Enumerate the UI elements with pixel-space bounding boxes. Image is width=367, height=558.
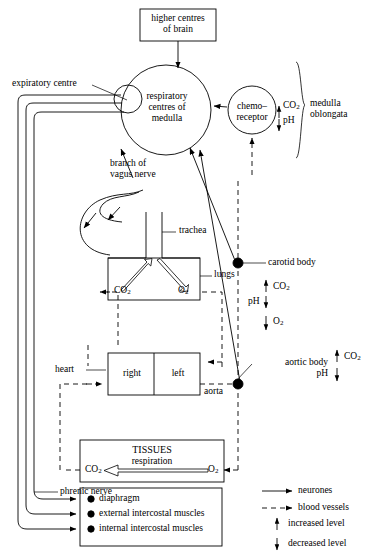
aortic-body-label: aortic body (252, 357, 328, 368)
expiratory-centre-label: expiratory centre (12, 78, 77, 89)
bullet-internal-intercostals (88, 526, 94, 532)
higher-centres-label: higher centres of brain (142, 13, 214, 35)
aorta-label: aorta (204, 386, 223, 397)
tissues-o2-label: O2 (208, 464, 218, 477)
lungs-label: lungs (214, 269, 235, 280)
tissues-co2-label: CO2 (85, 464, 102, 477)
trachea-label: trachea (179, 225, 206, 236)
respiratory-centres-label: respiratory centres of medulla (134, 91, 200, 124)
carotid-body-node (233, 258, 243, 268)
branch-vagus-label: branch of vagus nerve (110, 158, 156, 180)
legend-label-2: increased level (288, 518, 345, 529)
respiratory-control-diagram: higher centres of brain respiratory cent… (0, 0, 367, 558)
effector-label-0: diaphragm (99, 493, 140, 504)
carotid-body-label: carotid body (268, 257, 316, 268)
vagus-arrowhead-inner (108, 207, 120, 220)
lungs-co2-label: CO2 (114, 285, 131, 298)
tissues-label: TISSUES (80, 444, 224, 455)
legend-label-3: decreased level (288, 538, 346, 549)
carotid-co2-label: CO2 (273, 281, 290, 294)
neurone-carotid-to-medulla (190, 148, 236, 263)
vagus-branch-outer (80, 190, 143, 255)
legend-label-1: blood vessels (298, 502, 349, 513)
bloodvessel-lungs-to-heart (202, 292, 222, 368)
effector-label-1: external intercostal muscles (99, 508, 205, 519)
effector-label-2: internal intercostal muscles (99, 523, 203, 534)
heart-right-label: right (110, 368, 154, 379)
heart-label: heart (55, 364, 74, 375)
legend-label-0: neurones (298, 485, 332, 496)
chemo-ph-label: pH (283, 115, 295, 126)
lungs-o2-label: O2 (178, 285, 188, 298)
chemoreceptor-label: chemo– receptor (228, 101, 276, 123)
chemo-co2-label: CO2 (283, 100, 300, 113)
arrow-chemoreceptor-to-medulla (214, 106, 227, 107)
aortic-co2-label: CO2 (344, 351, 361, 364)
expiratory-centre-leader (92, 85, 127, 100)
medulla-oblongata-label: medulla oblongata (310, 98, 347, 120)
aortic-ph-label: pH (252, 368, 328, 379)
bullet-external-intercostals (88, 511, 94, 517)
heart-left-label: left (156, 368, 200, 379)
aortic-body-node (233, 379, 243, 389)
carotid-ph-label: pH (248, 296, 260, 307)
carotid-o2-label: O2 (273, 316, 283, 329)
vagus-arrowhead-outer (84, 213, 96, 228)
